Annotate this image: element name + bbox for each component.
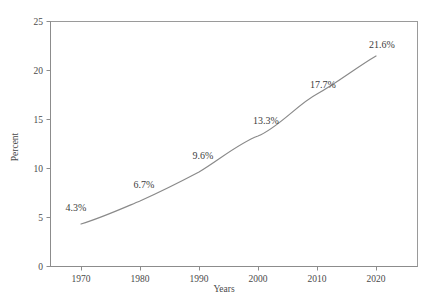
data-label: 21.6% <box>369 39 395 50</box>
x-tick-label: 2010 <box>308 274 327 284</box>
data-label: 13.3% <box>253 115 279 126</box>
y-tick-label: 15 <box>34 115 44 125</box>
y-tick-label: 5 <box>38 213 43 223</box>
x-tick-label: 2020 <box>367 274 386 284</box>
y-axis-tick-labels: 0 5 10 15 20 25 <box>34 17 44 272</box>
x-axis-tick-labels: 1970 1980 1990 2000 2010 2020 <box>72 274 386 284</box>
plot-frame <box>51 22 418 267</box>
x-axis-title: Years <box>213 284 235 294</box>
x-axis-ticks <box>82 267 377 271</box>
data-label: 17.7% <box>310 79 336 90</box>
y-axis-title: Percent <box>10 132 20 161</box>
y-tick-label: 10 <box>34 164 44 174</box>
y-tick-label: 25 <box>34 17 44 27</box>
y-axis-ticks <box>47 22 51 267</box>
data-label: 6.7% <box>134 179 155 190</box>
x-tick-label: 1980 <box>131 274 150 284</box>
data-label: 9.6% <box>193 150 214 161</box>
data-point-labels: 4.3% 6.7% 9.6% 13.3% 17.7% 21.6% <box>66 39 395 213</box>
y-tick-label: 20 <box>34 66 44 76</box>
x-tick-label: 1970 <box>72 274 91 284</box>
line-chart: 0 5 10 15 20 25 1970 1980 1990 2000 2010… <box>0 0 429 305</box>
data-label: 4.3% <box>66 202 87 213</box>
chart-canvas: 0 5 10 15 20 25 1970 1980 1990 2000 2010… <box>0 0 429 305</box>
x-tick-label: 1990 <box>190 274 209 284</box>
y-tick-label: 0 <box>38 262 43 272</box>
x-tick-label: 2000 <box>249 274 268 284</box>
